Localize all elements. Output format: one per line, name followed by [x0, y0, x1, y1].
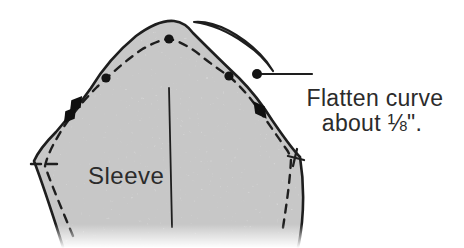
sleeve-label: Sleeve	[88, 162, 164, 189]
callout-dot	[252, 69, 262, 79]
callout-text-line2: about ⅛".	[322, 110, 422, 136]
top-seam-dot	[164, 34, 173, 43]
bottom-fade	[0, 224, 464, 248]
sewing-pattern-diagram: Sleeve Flatten curve about ⅛".	[0, 0, 464, 248]
sleeve-diagram-svg: Sleeve Flatten curve about ⅛".	[0, 0, 464, 248]
left-seam-dot	[101, 73, 110, 82]
callout-text-line1: Flatten curve	[307, 85, 444, 111]
right-seam-dot	[224, 71, 233, 80]
